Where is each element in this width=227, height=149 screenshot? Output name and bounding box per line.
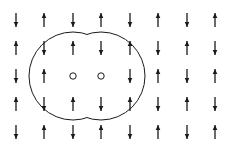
arrow-up-icon — [185, 41, 190, 55]
arrow-down-icon — [71, 125, 76, 139]
arrow-up-icon — [71, 97, 76, 111]
arrow-up-icon — [42, 13, 47, 27]
arrow-down-icon — [213, 41, 218, 55]
arrow-down-icon — [185, 13, 190, 27]
arrow-down-icon — [42, 41, 47, 55]
arrow-up-icon — [156, 125, 161, 139]
arrow-down-icon — [185, 125, 190, 139]
arrow-down-icon — [99, 41, 104, 55]
arrow-down-icon — [14, 13, 19, 27]
arrow-down-icon — [99, 97, 104, 111]
arrow-up-icon — [14, 97, 19, 111]
arrow-up-icon — [213, 69, 218, 83]
arrow-down-icon — [14, 125, 19, 139]
open-circle-icon — [98, 73, 104, 79]
arrow-down-icon — [128, 13, 133, 27]
arrow-down-icon — [128, 69, 133, 83]
arrow-down-icon — [156, 41, 161, 55]
arrow-down-icon — [14, 69, 19, 83]
arrow-up-icon — [213, 13, 218, 27]
arrow-down-icon — [71, 13, 76, 27]
arrow-up-icon — [99, 125, 104, 139]
domain-boundary — [29, 32, 145, 120]
arrow-up-icon — [156, 13, 161, 27]
arrow-down-icon — [213, 97, 218, 111]
arrow-up-icon — [128, 97, 133, 111]
arrow-up-icon — [42, 125, 47, 139]
arrow-up-icon — [128, 41, 133, 55]
arrow-up-icon — [14, 41, 19, 55]
arrow-up-icon — [99, 13, 104, 27]
spin-lattice-diagram — [0, 0, 227, 149]
lattice-cells — [14, 13, 218, 139]
arrow-down-icon — [128, 125, 133, 139]
open-circle-icon — [70, 73, 76, 79]
arrow-down-icon — [42, 97, 47, 111]
arrow-up-icon — [185, 97, 190, 111]
arrow-up-icon — [213, 125, 218, 139]
arrow-up-icon — [42, 69, 47, 83]
arrow-down-icon — [156, 97, 161, 111]
arrow-down-icon — [185, 69, 190, 83]
arrow-up-icon — [71, 41, 76, 55]
arrow-up-icon — [156, 69, 161, 83]
